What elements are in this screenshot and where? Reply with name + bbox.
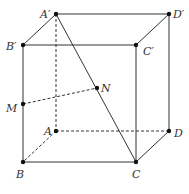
label-m: M <box>5 102 18 115</box>
label-b: B <box>15 168 24 181</box>
point-a <box>54 129 58 133</box>
point-c1 <box>134 43 138 47</box>
label-d1: D′ <box>172 8 185 21</box>
edge-d1-c1 <box>136 14 169 45</box>
label-n: N <box>100 82 111 95</box>
point-a1 <box>54 12 58 16</box>
point-d <box>167 129 171 133</box>
label-b1: B′ <box>5 40 17 53</box>
point-b <box>21 160 25 164</box>
point-m <box>21 102 25 106</box>
label-c: C <box>132 168 141 181</box>
label-a1: A′ <box>39 8 51 21</box>
label-c1: C′ <box>143 45 154 58</box>
point-c <box>134 160 138 164</box>
point-n <box>95 86 99 90</box>
point-b1 <box>21 43 25 47</box>
segment-m-n <box>23 88 97 104</box>
cube-diagram: A′ D′ B′ C′ A D B C M N <box>0 0 189 194</box>
label-a: A <box>43 125 52 138</box>
point-d1 <box>167 12 171 16</box>
edge-c-d <box>136 131 169 162</box>
label-d: D <box>173 127 183 140</box>
